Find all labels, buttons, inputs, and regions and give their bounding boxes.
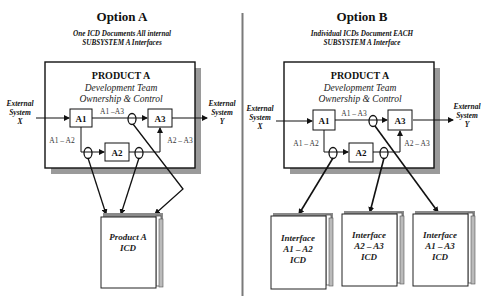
node-a2-label: A2 — [112, 148, 123, 158]
external-x-line2: System — [9, 108, 31, 117]
external-y-line2: System — [456, 111, 478, 120]
product-name: PRODUCT A — [331, 70, 390, 81]
external-x-line3: X — [16, 117, 23, 126]
icd-title-line2: A1 – A3 — [424, 241, 455, 251]
node-a3-label: A3 — [395, 116, 406, 126]
book-back — [159, 219, 163, 287]
option-a-subtitle-2: SUBSYSTEM A Interfaces — [82, 39, 162, 47]
option-a-title: Option A — [97, 9, 149, 24]
link-a1-a3-label: A1 –A3 — [100, 107, 124, 116]
icd-options-diagram: Option A One ICD Documents All internal … — [0, 0, 488, 304]
icd-title-line3: ICD — [360, 252, 378, 262]
external-y-line1: External — [452, 102, 481, 111]
option-b-subtitle-1: Individual ICDs Document EACH — [310, 30, 414, 38]
icd-title-line2: ICD — [119, 243, 137, 253]
node-a1-label: A1 — [76, 114, 87, 124]
external-x-line3: X — [256, 122, 263, 131]
link-a1-a2-label: A1 – A2 — [49, 136, 75, 145]
product-team-line2: Ownership & Control — [318, 94, 401, 104]
icd-title-line3: ICD — [289, 255, 307, 265]
external-x-line1: External — [5, 99, 34, 108]
option-b-subtitle-2: SUBSYSTEM A Interface — [324, 39, 402, 47]
link-a2-a3-label: A2 – A3 — [404, 139, 430, 148]
external-y-line3: Y — [465, 120, 471, 129]
product-team-line1: Development Team — [84, 83, 158, 93]
icd-book-a1-a2: Interface A1 – A2 ICD — [271, 213, 333, 289]
option-a-panel: Option A One ICD Documents All internal … — [5, 9, 236, 288]
node-a2-label: A2 — [356, 148, 367, 158]
node-a3-label: A3 — [155, 114, 166, 124]
book-back — [471, 216, 475, 284]
icd-book-a2-a3: Interface A2 – A3 ICD — [342, 211, 404, 286]
product-name: PRODUCT A — [92, 70, 151, 81]
external-x-line2: System — [249, 113, 271, 122]
book-back — [400, 216, 404, 284]
link-a1-a2-label: A1 – A2 — [293, 139, 319, 148]
node-a1-label: A1 — [319, 116, 330, 126]
product-team-line1: Development Team — [323, 83, 397, 93]
option-b-title: Option B — [337, 9, 388, 24]
icd-title-line3: ICD — [431, 252, 449, 262]
icd-book-a1-a3: Interface A1 – A3 ICD — [413, 211, 475, 286]
link-a1-a3-label: A1 – A3 — [341, 109, 367, 118]
external-y-line1: External — [207, 99, 236, 108]
icd-title-line1: Product A — [109, 232, 146, 242]
external-y-line2: System — [211, 108, 233, 117]
book-back — [329, 218, 333, 286]
link-a2-a3-label: A2 – A3 — [167, 136, 193, 145]
icd-title-line1: Interface — [351, 230, 386, 240]
icd-title-line2: A1 – A2 — [282, 244, 313, 254]
external-y-line3: Y — [220, 117, 226, 126]
icd-title-line1: Interface — [422, 230, 457, 240]
product-a-icd-book: Product A ICD — [101, 213, 163, 288]
icd-title-line2: A2 – A3 — [353, 241, 384, 251]
option-b-panel: Option B Individual ICDs Document EACH S… — [245, 9, 481, 289]
option-a-subtitle-1: One ICD Documents All internal — [73, 30, 171, 38]
product-team-line2: Ownership & Control — [79, 94, 162, 104]
icd-title-line1: Interface — [280, 233, 315, 243]
external-x-line1: External — [245, 104, 274, 113]
